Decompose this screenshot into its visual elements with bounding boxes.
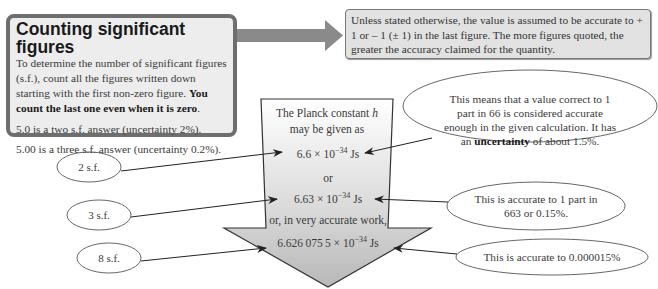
sf-label-8: 8 s.f. (98, 252, 120, 264)
connector-arrow-shaft (237, 29, 327, 42)
callout-3sf-ellipse (447, 182, 625, 230)
callout-3sf-line1: This is accurate to 1 part in (475, 193, 598, 205)
sf-label-3: 3 s.f. (88, 209, 110, 221)
counting-sf-info-box: Counting significant figures To determin… (6, 14, 237, 137)
pointer-3sf (131, 199, 277, 217)
planck-or-1: or (323, 172, 333, 184)
sf-label-2: 2 s.f. (78, 161, 100, 173)
info-box-body: To determine the number of significant f… (16, 56, 227, 116)
planck-intro-line1: The Planck constant h (276, 107, 378, 119)
connector-arrow-head (325, 20, 343, 51)
pointer-8sf (141, 248, 266, 261)
accuracy-note-box: Unless stated otherwise, the value is as… (345, 9, 651, 59)
info-box-title: Counting significant figures (16, 20, 227, 56)
callout-8sf-line1: This is accurate to 0.000015% (483, 251, 621, 263)
callout-2sf-line2: part in 66 is considered accurate (457, 107, 603, 119)
callout-2sf-line4: an uncertainty of about 1.5%. (461, 135, 600, 147)
pointer-callout-8sf (394, 248, 457, 254)
callout-2sf-line1: This means that a value correct to 1 (450, 93, 611, 105)
connector-arrow (237, 20, 343, 51)
planck-value-3sf: 6.63 × 10−34 Js (294, 191, 363, 205)
callout-2sf-line3: enough in the given calculation. It has (444, 121, 616, 133)
accuracy-note-text: Unless stated otherwise, the value is as… (351, 14, 643, 55)
planck-or-2: or, in very accurate work, (269, 214, 387, 227)
planck-value-2sf: 6.6 × 10−34 Js (297, 146, 360, 160)
planck-intro-line2: may be given as (290, 123, 365, 136)
info-box-emphasis-end: . (197, 102, 200, 114)
callout-3sf-line2: 663 or 0.15%. (504, 207, 568, 219)
info-box-example-2: 5.00 is a three s.f. answer (uncertainty… (16, 142, 227, 156)
info-box-example-1: 5.0 is a two s.f. answer (uncertainty 2%… (16, 122, 227, 136)
